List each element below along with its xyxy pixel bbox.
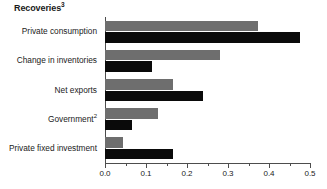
x-tick-major [228,164,229,168]
bar [105,61,152,72]
x-tick-major [310,164,311,168]
chart-title: Recoveries3 [14,3,65,13]
x-tick-minor [126,164,127,166]
x-tick-label: 0.3 [222,169,233,178]
x-tick-major [105,164,106,168]
category-label-footnote-marker: 2 [94,113,97,119]
category-label-text: Government [48,114,94,124]
bar [105,149,173,160]
bar [105,120,132,131]
x-tick-major [146,164,147,168]
bar [105,50,220,61]
x-tick-major [269,164,270,168]
bar [105,21,258,32]
x-tick-minor [208,164,209,166]
chart-title-footnote-marker: 3 [61,1,65,8]
category-label: Change in inventories [17,55,97,65]
bar [105,79,173,90]
category-label: Private fixed investment [9,143,97,153]
x-tick-label: 0.2 [181,169,192,178]
x-tick-minor [167,164,168,166]
category-label: Government2 [48,114,97,124]
x-tick-label: 0.5 [304,169,315,178]
chart-title-text: Recoveries [14,3,61,13]
x-tick-label: 0.1 [140,169,151,178]
category-label-text: Change in inventories [17,55,97,65]
x-tick-minor [249,164,250,166]
bar [105,137,123,148]
x-tick-minor [290,164,291,166]
x-tick-label: 0.0 [99,169,110,178]
bar [105,91,203,102]
x-tick-label: 0.4 [263,169,274,178]
category-label: Private consumption [22,26,97,36]
category-label-text: Private fixed investment [9,143,97,153]
bar [105,32,300,43]
bar-chart: Recoveries3 0.00.10.20.30.40.5 Private c… [0,0,327,189]
bar [105,108,158,119]
category-label-text: Private consumption [22,26,97,36]
x-tick-major [187,164,188,168]
category-label-text: Net exports [55,85,97,95]
category-label: Net exports [55,85,97,95]
